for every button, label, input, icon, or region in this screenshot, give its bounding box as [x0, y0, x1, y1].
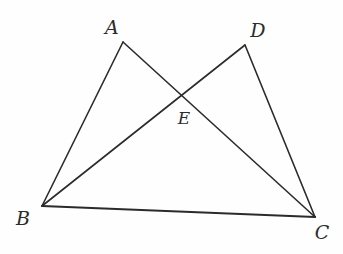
segment-AB: [42, 42, 123, 206]
vertex-label-C: C: [315, 223, 330, 242]
vertex-label-D: D: [250, 21, 265, 40]
segment-DC: [245, 45, 315, 217]
vertex-label-E: E: [178, 110, 191, 127]
segment-AC: [123, 42, 315, 217]
vertex-label-B: B: [16, 209, 30, 228]
vertex-label-A: A: [105, 18, 119, 37]
figure-canvas: [0, 0, 343, 254]
segments-group: [42, 42, 315, 217]
segment-BC: [42, 206, 315, 217]
geometry-diagram: A B C D E: [0, 0, 343, 254]
